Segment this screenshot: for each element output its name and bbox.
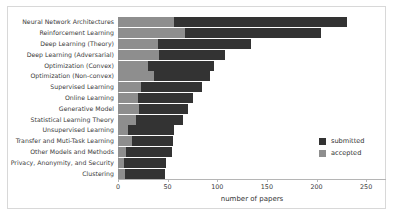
x-tick-mark — [366, 179, 367, 182]
bar-row: Neural Network Architectures — [118, 17, 384, 27]
x-tick-label: 150 — [261, 183, 273, 191]
x-tick-label: 250 — [360, 183, 372, 191]
bar-row: Optimization (Non-convex) — [118, 71, 384, 81]
category-label: Optimization (Convex) — [44, 62, 114, 68]
bar-segment-accepted — [118, 17, 174, 27]
bar-row: Privacy, Anonymity, and Security — [118, 158, 384, 168]
legend-label-accepted: accepted — [331, 149, 361, 157]
bar-segment-accepted — [118, 39, 158, 49]
legend-swatch-accepted — [319, 150, 326, 157]
bar-segment-accepted — [118, 115, 136, 125]
bar-segment-accepted — [118, 136, 132, 146]
category-label: Neural Network Architectures — [22, 19, 114, 25]
bar-segment-accepted — [118, 82, 141, 92]
x-tick-mark — [168, 179, 169, 182]
bar-row: Deep Learning (Theory) — [118, 39, 384, 49]
bar-segment-accepted — [118, 158, 124, 168]
bar-segment-accepted — [118, 125, 128, 135]
legend-item-accepted: accepted — [319, 147, 389, 159]
chart-legend: submitted accepted — [319, 135, 389, 159]
x-axis-title: number of papers — [118, 195, 386, 203]
bar-segment-submitted — [118, 147, 172, 157]
x-tick-label: 50 — [164, 183, 172, 191]
bar-segment-accepted — [118, 50, 159, 60]
legend-label-submitted: submitted — [331, 137, 364, 145]
category-label: Reinforcement Learning — [40, 30, 115, 36]
category-label: Transfer and Muti-Task Learning — [16, 138, 114, 144]
bar-segment-accepted — [118, 71, 154, 81]
bar-row: Optimization (Convex) — [118, 61, 384, 71]
x-tick-mark — [217, 179, 218, 182]
x-tick-mark — [118, 179, 119, 182]
bar-segment-submitted — [118, 158, 166, 168]
bar-row: Reinforcement Learning — [118, 28, 384, 38]
x-tick-mark — [317, 179, 318, 182]
category-label: Generative Model — [59, 106, 114, 112]
category-label: Supervised Learning — [50, 84, 114, 90]
x-tick-label: 100 — [211, 183, 223, 191]
bar-row: Supervised Learning — [118, 82, 384, 92]
category-label: Other Models and Methods — [30, 149, 114, 155]
category-label: Statistical Learning Theory — [31, 116, 114, 122]
x-tick-label: 200 — [310, 183, 322, 191]
bar-row: Deep Learning (Adversarial) — [118, 50, 384, 60]
bar-segment-accepted — [118, 104, 139, 114]
bar-segment-accepted — [118, 28, 185, 38]
category-label: Unsupervised Learning — [43, 127, 114, 133]
chart-screenshot: Neural Network ArchitecturesReinforcemen… — [0, 0, 393, 216]
bar-segment-accepted — [118, 147, 126, 157]
bar-row: Online Learning — [118, 93, 384, 103]
bar-row: Generative Model — [118, 104, 384, 114]
bar-segment-submitted — [118, 169, 165, 179]
category-label: Deep Learning (Theory) — [40, 41, 114, 47]
category-label: Optimization (Non-convex) — [30, 73, 114, 79]
bar-segment-accepted — [118, 93, 138, 103]
legend-swatch-submitted — [319, 138, 326, 145]
bar-row: Unsupervised Learning — [118, 125, 384, 135]
bar-segment-accepted — [118, 169, 125, 179]
legend-item-submitted: submitted — [319, 135, 389, 147]
x-tick-label: 0 — [116, 183, 120, 191]
category-label: Online Learning — [65, 95, 114, 101]
category-label: Deep Learning (Adversarial) — [27, 52, 114, 58]
figure-frame: Neural Network ArchitecturesReinforcemen… — [7, 6, 386, 209]
bar-row: Statistical Learning Theory — [118, 115, 384, 125]
category-label: Clustering — [82, 170, 114, 176]
category-label: Privacy, Anonymity, and Security — [11, 160, 114, 166]
bar-segment-accepted — [118, 61, 148, 71]
bar-row: Clustering — [118, 169, 384, 179]
x-tick-mark — [267, 179, 268, 182]
